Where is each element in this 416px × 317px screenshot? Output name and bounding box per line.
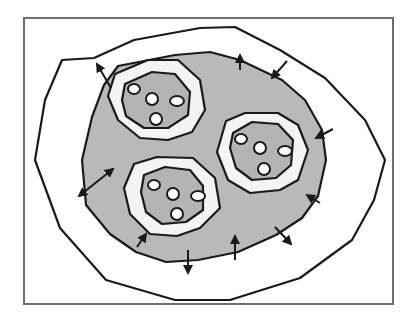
compartment-right [217, 113, 308, 193]
small-circle [146, 93, 158, 105]
small-circle [235, 134, 247, 144]
small-circle [170, 96, 184, 106]
small-circle [148, 180, 160, 190]
small-circle [128, 84, 140, 94]
small-circle [254, 142, 266, 154]
small-circle [278, 146, 292, 156]
small-circle [258, 163, 270, 175]
small-circle [191, 191, 205, 201]
small-circle [150, 113, 162, 125]
small-circle [167, 188, 179, 200]
small-circle [171, 208, 183, 220]
diagram-canvas [0, 0, 416, 317]
cell-diagram [0, 0, 416, 317]
